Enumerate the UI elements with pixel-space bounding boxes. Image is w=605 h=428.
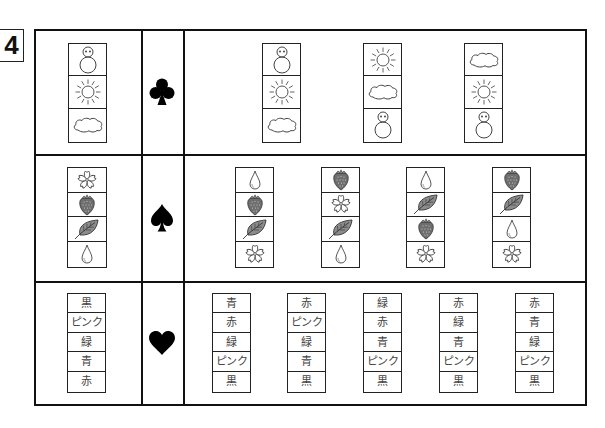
color-word-cell: 赤 (364, 313, 401, 332)
strawberry-icon (322, 168, 359, 193)
cherry-blossom-icon (493, 242, 530, 267)
cherry-blossom-icon (68, 168, 106, 193)
color-word-cell: 赤 (213, 313, 250, 332)
color-word: 赤 (377, 317, 388, 328)
cherry-blossom-icon (322, 193, 359, 218)
cloud-icon (263, 109, 300, 141)
color-word-cell: 青 (516, 313, 553, 332)
color-word: 青 (226, 298, 237, 309)
cloud-icon (465, 44, 502, 76)
color-word: 赤 (301, 298, 312, 309)
sun-icon (465, 76, 502, 108)
color-word-cell: 赤 (68, 372, 105, 391)
color-word-cell: 青 (364, 333, 401, 352)
snowman-icon (263, 44, 300, 76)
color-word: 緑 (301, 337, 312, 348)
color-word: 黒 (529, 376, 540, 387)
option-tile[interactable] (492, 167, 531, 268)
water-drop-icon (322, 242, 359, 267)
color-word: ピンク (443, 356, 475, 367)
option-tile[interactable]: 赤緑青ピンク黒 (439, 293, 478, 393)
spade-suit-icon (141, 154, 183, 281)
option-tile[interactable] (363, 43, 402, 143)
strawberry-icon (493, 168, 530, 193)
column-divider (183, 31, 185, 404)
leaf-icon (322, 217, 359, 242)
strawberry-icon (236, 193, 273, 218)
heart-suit-icon (141, 281, 183, 404)
cherry-blossom-icon (236, 242, 273, 267)
color-word-cell: ピンク (516, 352, 553, 371)
option-tile[interactable] (262, 43, 301, 143)
color-word-cell: ピンク (440, 352, 477, 371)
color-word: 青 (81, 356, 92, 367)
option-tile[interactable]: 赤ピンク緑青黒 (287, 293, 326, 393)
color-word-cell: 緑 (516, 333, 553, 352)
water-drop-icon (68, 242, 106, 267)
question-number: 4 (0, 29, 24, 62)
color-word: 黒 (453, 376, 464, 387)
color-word-cell: 赤 (288, 294, 325, 313)
option-tile[interactable] (235, 167, 274, 268)
color-word: 緑 (529, 337, 540, 348)
option-tile[interactable] (464, 43, 503, 143)
snowman-icon (465, 109, 502, 141)
example-tile: 黒ピンク緑青赤 (67, 293, 106, 393)
cherry-blossom-icon (407, 242, 444, 267)
color-word: 緑 (226, 337, 237, 348)
leaf-icon (407, 193, 444, 218)
color-word-cell: 黒 (288, 372, 325, 391)
color-word-cell: 黒 (68, 294, 105, 313)
color-word-cell: 緑 (288, 333, 325, 352)
leaf-icon (236, 217, 273, 242)
color-word-cell: 赤 (516, 294, 553, 313)
color-word: 赤 (453, 298, 464, 309)
club-suit-icon (141, 29, 183, 154)
color-word: 緑 (81, 337, 92, 348)
row-divider (36, 154, 585, 156)
leaf-icon (493, 193, 530, 218)
leaf-icon (68, 217, 106, 242)
color-word: ピンク (216, 356, 248, 367)
option-tile[interactable]: 青赤緑ピンク黒 (212, 293, 251, 393)
color-word-cell: 青 (288, 352, 325, 371)
color-word: 緑 (377, 298, 388, 309)
option-tile[interactable]: 赤青緑ピンク黒 (515, 293, 554, 393)
color-word-cell: 黒 (516, 372, 553, 391)
color-word: 赤 (81, 376, 92, 387)
cloud-icon (364, 76, 401, 108)
color-word-cell: 緑 (440, 313, 477, 332)
sun-icon (69, 76, 106, 108)
color-word: 赤 (529, 298, 540, 309)
color-word: ピンク (367, 356, 399, 367)
color-word-cell: 緑 (364, 294, 401, 313)
water-drop-icon (236, 168, 273, 193)
option-tile[interactable] (406, 167, 445, 268)
color-word: ピンク (71, 317, 103, 328)
option-tile[interactable]: 緑赤青ピンク黒 (363, 293, 402, 393)
color-word: 黒 (226, 376, 237, 387)
color-word-cell: 青 (213, 294, 250, 313)
color-word: 青 (377, 337, 388, 348)
sun-icon (263, 76, 300, 108)
strawberry-icon (407, 217, 444, 242)
color-word: ピンク (519, 356, 551, 367)
water-drop-icon (407, 168, 444, 193)
snowman-icon (69, 44, 106, 76)
option-tile[interactable] (321, 167, 360, 268)
color-word-cell: 黒 (213, 372, 250, 391)
color-word-cell: 黒 (364, 372, 401, 391)
snowman-icon (364, 109, 401, 141)
example-tile (67, 167, 107, 268)
sun-icon (364, 44, 401, 76)
water-drop-icon (493, 217, 530, 242)
color-word: 赤 (226, 317, 237, 328)
color-word: ピンク (291, 317, 323, 328)
strawberry-icon (68, 193, 106, 218)
color-word: 青 (453, 337, 464, 348)
color-word: 黒 (81, 298, 92, 309)
color-word-cell: ピンク (68, 313, 105, 332)
color-word-cell: 緑 (68, 333, 105, 352)
color-word-cell: 青 (440, 333, 477, 352)
color-word-cell: 赤 (440, 294, 477, 313)
